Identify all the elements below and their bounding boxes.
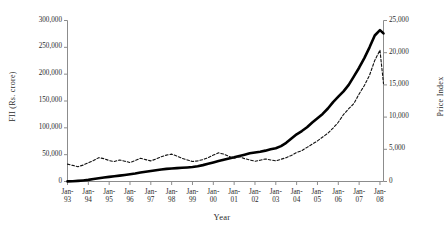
y-axis-right-tick-25000: 25,000 xyxy=(389,16,435,24)
x-axis-tick-jan-08: Jan-08 xyxy=(368,188,392,205)
y-axis-left-tick-0: 0 xyxy=(16,177,62,185)
y-axis-left-title: FII (Rs. crore) xyxy=(8,49,17,145)
y-axis-left-tick-50000: 50,000 xyxy=(16,150,62,158)
chart-container: 300,000 250,000 200,000 150,000 100,000 … xyxy=(0,0,444,232)
y-axis-left-tick-250000: 250,000 xyxy=(16,42,62,50)
y-axis-right-tick-5000: 5,000 xyxy=(389,144,435,152)
x-axis-title: Year xyxy=(0,212,444,222)
y-axis-left-tick-100000: 100,000 xyxy=(16,123,62,131)
x-tick-month: Jan- xyxy=(368,188,392,197)
y-axis-right-tick-10000: 10,000 xyxy=(389,112,435,120)
y-axis-left-tick-300000: 300,000 xyxy=(16,16,62,24)
x-tick-year: 08 xyxy=(368,196,392,205)
y-axis-right-tick-15000: 15,000 xyxy=(389,80,435,88)
series-line-fii xyxy=(68,30,384,181)
series-line-price-index xyxy=(68,50,384,167)
chart-series xyxy=(68,30,384,181)
y-axis-right-tick-20000: 20,000 xyxy=(389,48,435,56)
y-axis-right-tick-0: 0 xyxy=(389,177,435,185)
y-axis-left-tick-200000: 200,000 xyxy=(16,69,62,77)
y-axis-left-tick-150000: 150,000 xyxy=(16,96,62,104)
y-axis-right-title: Price Index xyxy=(436,49,444,145)
